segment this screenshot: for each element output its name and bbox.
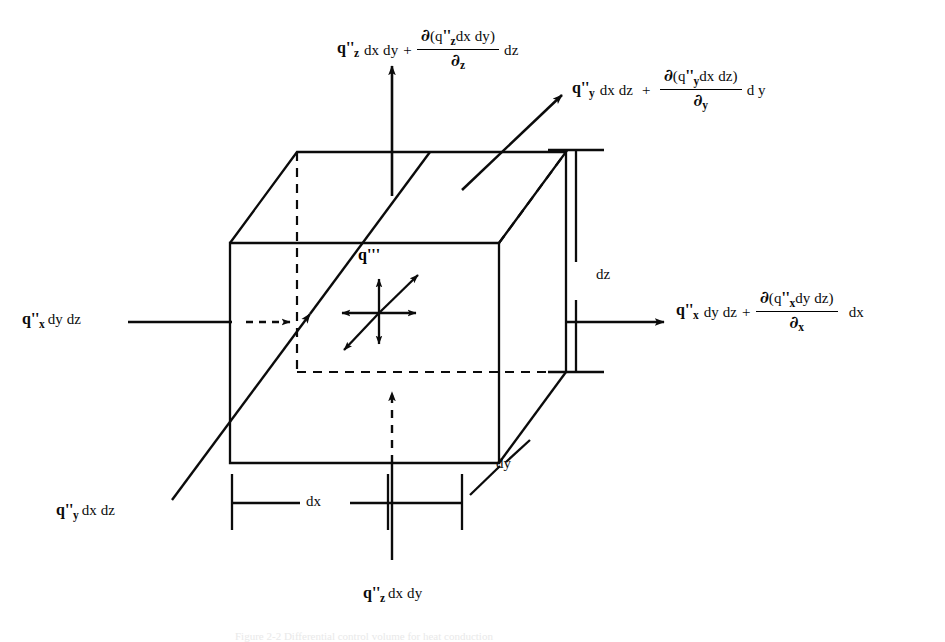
y-in-arrow: [172, 314, 310, 500]
cube-hidden-edges: [297, 152, 566, 372]
label-dx: dx: [306, 493, 321, 510]
z-in-primes: '': [372, 584, 380, 601]
label-z-in: q''zdx dy: [363, 585, 422, 605]
x-out-q: q: [676, 301, 685, 318]
x-out-plus: +: [742, 305, 751, 320]
label-y-out: q''y dx dz + ∂(q''ydx dz) ∂y d y: [572, 68, 766, 112]
generation-starburst: [342, 275, 418, 350]
z-in-subscript: z: [380, 592, 385, 604]
y-out-fraction: ∂(q''ydx dz) ∂y: [660, 67, 742, 111]
x-out-den-partial: ∂: [789, 312, 798, 332]
cube-top-face: [230, 152, 566, 243]
y-out-den-sub: y: [702, 99, 708, 111]
x-out-differential: dx: [849, 305, 864, 320]
z-out-subscript: z: [354, 48, 359, 60]
label-generation: q''': [358, 246, 380, 264]
y-in-area: dx dz: [82, 502, 115, 518]
label-x-in: q''xdy dz: [22, 311, 81, 331]
z-out-differential: dz: [504, 43, 518, 58]
figure-caption: Figure 2-2 Differential control volume f…: [235, 630, 493, 642]
y-out-area: dx dz: [600, 83, 633, 98]
label-dz: dz: [596, 266, 610, 283]
y-out-num-tail: dx dz): [699, 68, 738, 84]
y-out-differential: d y: [747, 83, 766, 98]
x-in-q: q: [22, 310, 31, 327]
z-out-num-body: (q: [430, 28, 443, 44]
y-in-q: q: [56, 501, 65, 518]
z-out-num-partial: ∂: [421, 25, 430, 45]
x-in-area: dy dz: [48, 311, 81, 327]
label-dy: dy: [496, 455, 511, 472]
x-in-subscript: x: [39, 318, 45, 330]
y-out-subscript: y: [589, 88, 595, 100]
x-out-subscript: x: [693, 310, 699, 322]
z-out-den-sub: z: [460, 59, 465, 71]
x-out-num-partial: ∂: [760, 287, 769, 307]
dz-dimension: [548, 150, 604, 372]
x-out-primes: '': [685, 301, 693, 318]
z-out-area: dx dy: [364, 43, 398, 58]
cube-hidden-edge-diagonal: [499, 152, 566, 243]
y-in-primes: '': [65, 501, 73, 518]
dy-dimension: [388, 466, 500, 530]
y-out-arrow: [462, 95, 562, 190]
y-out-num-body: (q: [673, 68, 686, 84]
y-diagonal-through-cube: [310, 152, 430, 314]
cube-front-face: [230, 243, 499, 463]
x-out-num-tail: dy dz): [795, 290, 834, 306]
y-in-subscript: y: [73, 509, 79, 521]
x-in-primes: '': [31, 310, 39, 327]
z-out-primes: '': [346, 39, 354, 56]
y-out-den-partial: ∂: [693, 90, 702, 110]
label-z-out: q''z dx dy + ∂(q''zdx dy) ∂z dz: [337, 28, 518, 72]
z-out-fraction: ∂(q''zdx dy) ∂z: [417, 27, 499, 71]
z-out-plus: +: [403, 43, 412, 58]
z-out-den-partial: ∂: [451, 50, 460, 70]
label-y-in: q''ydx dz: [56, 502, 115, 522]
x-out-num-body: (q: [769, 290, 782, 306]
x-out-den-sub: x: [798, 321, 804, 333]
y-out-primes: '': [581, 79, 589, 96]
label-x-out: q''x dy dz + ∂(q''xdy dz) ∂x dx: [676, 290, 864, 334]
y-out-plus: +: [642, 83, 651, 98]
z-out-q: q: [337, 39, 346, 56]
z-out-num-primes: '': [443, 27, 451, 44]
y-out-num-partial: ∂: [664, 65, 673, 85]
z-out-num-tail: dx dy): [456, 28, 495, 44]
x-out-fraction: ∂(q''xdy dz) ∂x: [756, 289, 838, 333]
y-out-q: q: [572, 79, 581, 96]
z-in-area: dx dy: [388, 585, 422, 601]
z-in-q: q: [363, 584, 372, 601]
x-out-area: dy dz: [704, 305, 737, 320]
